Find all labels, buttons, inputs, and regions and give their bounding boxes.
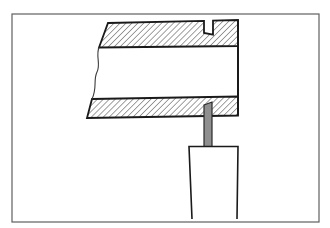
tool-shank-body [189,147,238,220]
workpiece-bottom-wall-section [87,97,238,119]
technical-diagram [0,0,330,228]
workpiece-top-wall-section [99,20,238,48]
figure-page [0,0,330,228]
parting-tool-blade [204,102,212,147]
